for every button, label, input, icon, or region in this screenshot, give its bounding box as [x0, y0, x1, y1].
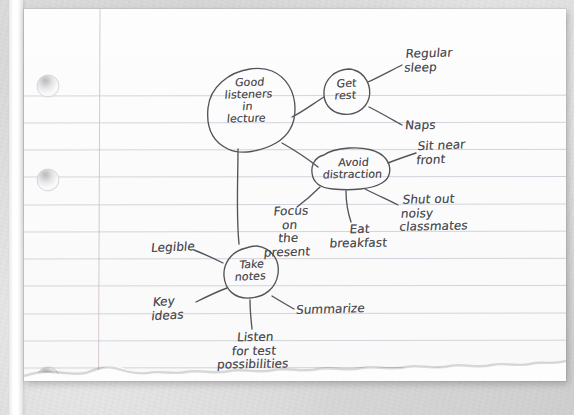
leaf-label-regular-sleep: Regular sleep [404, 46, 467, 75]
leaf-label-focus-present: Focus on the present [260, 204, 317, 260]
paper-sheet: Good listeners in lecture Get rest Avoid… [24, 9, 566, 381]
notebook-screenshot: Good listeners in lecture Get rest Avoid… [0, 0, 574, 415]
leaf-label-sit-near-front: Sit near front [416, 138, 481, 168]
binding-strip [9, 0, 23, 415]
leaf-label-key-ideas: Key ideas [151, 294, 198, 323]
leaf-label-eat-breakfast: Eat breakfast [327, 223, 391, 251]
node-label-take-notes: Take notes [224, 258, 278, 285]
leaf-label-listen-for-test: Listen for test possibilities [212, 330, 296, 372]
leaf-label-legible: Legible [150, 240, 199, 256]
leaf-label-summarize: Summarize [295, 302, 368, 318]
node-label-root: Good listeners in lecture [208, 76, 289, 126]
node-label-get-rest: Get rest [322, 77, 370, 103]
node-label-avoid-distraction: Avoid distraction [311, 156, 395, 181]
paper-surface [24, 9, 566, 381]
leaf-label-shut-out-noisy: Shut out noisy classmates [399, 192, 480, 234]
leaf-label-naps: Naps [404, 119, 451, 133]
